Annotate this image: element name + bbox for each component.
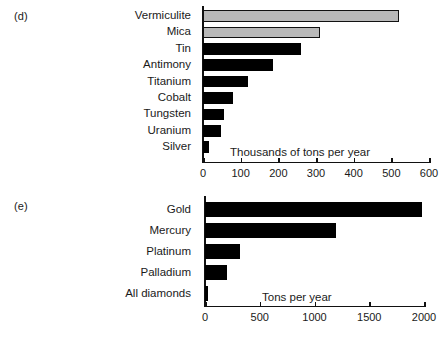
x-axis-tick-label: 600 [420,167,438,179]
x-axis-tick [354,158,356,163]
bar-titanium [203,76,248,88]
x-axis-tick-label: 0 [200,167,206,179]
panel-e: (e) GoldMercuryPlatinumPalladiumAll diam… [0,186,441,339]
x-axis-tick-label: 1500 [357,311,381,323]
category-label-uranium: Uranium [148,125,191,137]
x-axis-tick-label: 1000 [302,311,326,323]
panel-e-axis-note: Tons per year [262,291,332,303]
x-axis-tick-label: 300 [307,167,325,179]
x-axis-tick-label: 500 [251,311,269,323]
bar-all-diamonds [205,286,208,301]
x-axis-tick-label: 200 [269,167,287,179]
category-label-tin: Tin [175,43,191,55]
x-axis-tick [278,158,280,163]
x-axis-tick-label: 0 [202,311,208,323]
bar-silver [203,141,209,153]
panel-d: (d) VermiculiteMicaTinAntimonyTitaniumCo… [0,0,441,186]
category-label-cobalt: Cobalt [158,92,191,104]
x-axis-tick [315,302,317,307]
bar-antimony [203,59,273,71]
x-axis-tick [391,158,393,163]
category-label-mica: Mica [167,27,191,39]
bar-mica [203,27,320,39]
panel-d-tag: (d) [14,10,28,22]
x-axis-tick-label: 500 [382,167,400,179]
x-axis-tick [316,158,318,163]
panel-d-plot-area: Thousands of tons per year 0100200300400… [202,6,430,163]
bar-uranium [203,125,221,137]
category-label-silver: Silver [162,141,191,153]
category-label-platinum: Platinum [146,246,191,258]
bar-palladium [205,265,227,280]
category-label-palladium: Palladium [141,267,192,279]
x-axis-tick [424,302,426,307]
bar-vermiculite [203,10,399,22]
bar-gold [205,202,422,217]
bar-platinum [205,244,240,259]
panel-e-plot-area: Tons per year 0500100015002000 [204,196,425,307]
category-label-all-diamonds: All diamonds [125,288,191,300]
category-label-titanium: Titanium [147,76,191,88]
category-label-antimony: Antimony [143,59,191,71]
category-label-tungsten: Tungsten [143,109,191,121]
panel-e-tag: (e) [14,200,28,212]
category-label-gold: Gold [167,204,191,216]
x-axis-tick-label: 400 [344,167,362,179]
category-label-mercury: Mercury [149,225,191,237]
bar-tungsten [203,109,224,121]
bar-tin [203,43,301,55]
panel-d-axis-note: Thousands of tons per year [230,146,370,158]
x-axis-tick [429,158,431,163]
x-axis-tick [203,158,205,163]
x-axis-tick [205,302,207,307]
x-axis-tick-label: 2000 [412,311,436,323]
figure-two-panel-bar-charts: (d) VermiculiteMicaTinAntimonyTitaniumCo… [0,0,441,339]
bar-mercury [205,223,336,238]
x-axis-tick-label: 100 [231,167,249,179]
x-axis-tick [369,302,371,307]
x-axis-tick [241,158,243,163]
category-label-vermiculite: Vermiculite [135,10,191,22]
bar-cobalt [203,92,233,104]
x-axis-tick [260,302,262,307]
